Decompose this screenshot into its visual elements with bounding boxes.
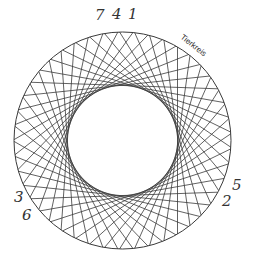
tierkreis-label: Tierkreis xyxy=(179,32,208,58)
chord-line xyxy=(63,149,231,231)
chord-lines xyxy=(14,32,231,249)
chord-line xyxy=(61,43,74,230)
chord-line xyxy=(23,33,133,184)
chord-line xyxy=(120,90,219,249)
chord-line xyxy=(105,34,225,177)
label-3: 3 xyxy=(14,188,24,206)
chord-line xyxy=(23,97,133,248)
chord-line xyxy=(76,43,231,148)
chord-line xyxy=(39,71,103,247)
chord-line xyxy=(39,34,103,210)
chord-line xyxy=(63,50,231,132)
label-4: 4 xyxy=(111,5,122,23)
label-5: 5 xyxy=(232,176,242,194)
chord-line xyxy=(18,111,148,246)
label-7: 7 xyxy=(95,6,105,24)
label-2: 2 xyxy=(221,192,232,210)
chord-line xyxy=(61,51,74,238)
chord-line xyxy=(76,134,231,239)
label-6: 6 xyxy=(22,206,32,224)
chord-line xyxy=(15,156,188,226)
chord-line xyxy=(105,104,225,247)
chord-line xyxy=(18,35,148,170)
zodiac-chord-diagram: 7 4 1 Tierkreis 3 6 5 2 xyxy=(0,0,253,265)
chord-line xyxy=(24,76,210,96)
chord-line xyxy=(15,54,188,124)
label-1: 1 xyxy=(128,5,138,23)
chord-line xyxy=(24,185,210,205)
